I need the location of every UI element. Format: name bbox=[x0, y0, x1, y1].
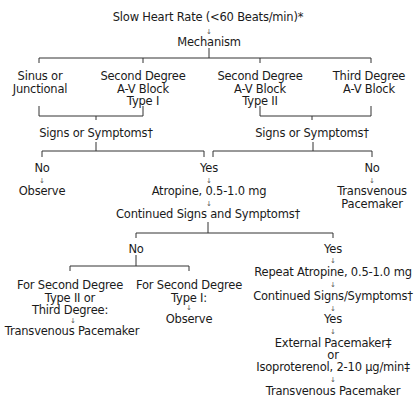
action-line: Transvenous bbox=[337, 185, 407, 198]
option-type1: For Second Degree Type I: bbox=[136, 279, 242, 304]
title: Slow Heart Rate (<60 Beats/min)* bbox=[113, 11, 304, 24]
cause-line: Sinus or bbox=[13, 70, 68, 83]
left-no: No bbox=[34, 162, 49, 175]
left-observe: Observe bbox=[19, 185, 66, 198]
continued-yes: Yes bbox=[324, 243, 342, 256]
option-line: Type I: bbox=[136, 292, 242, 305]
right-no: No bbox=[364, 162, 379, 175]
final-transvenous-pacemaker: Transvenous Pacemaker bbox=[266, 385, 401, 398]
option-line: For Second Degree bbox=[17, 279, 123, 292]
option-type2-third: For Second Degree Type II or Third Degre… bbox=[17, 279, 123, 317]
continued-no: No bbox=[128, 243, 143, 256]
mechanism: Mechanism bbox=[177, 36, 241, 49]
arrow-icon: ↓ bbox=[330, 329, 336, 336]
cause-third-degree: Third Degree A-V Block bbox=[333, 70, 405, 95]
right-signs-question: Signs or Symptoms† bbox=[255, 127, 369, 140]
option1-action: Transvenous Pacemaker bbox=[5, 325, 140, 338]
repeat-atropine: Repeat Atropine, 0.5-1.0 mg bbox=[254, 266, 411, 279]
cause-line: Third Degree bbox=[333, 70, 405, 83]
option-line: Third Degree: bbox=[17, 304, 123, 317]
arrow-icon: ↓ bbox=[330, 258, 336, 265]
action-line: Pacemaker bbox=[337, 198, 407, 211]
cause-line: Type I bbox=[100, 95, 185, 108]
cause-line: A-V Block bbox=[333, 83, 405, 96]
yes: Yes bbox=[200, 162, 218, 175]
yes-2: Yes bbox=[324, 313, 342, 326]
arrow-icon: ↓ bbox=[186, 305, 192, 312]
cause-second-degree-type1: Second Degree A-V Block Type I bbox=[100, 70, 185, 108]
arrow-icon: ↓ bbox=[330, 377, 336, 384]
isoproterenol: Isoproterenol, 2-10 μg/min‡ bbox=[256, 361, 409, 374]
cause-line: Second Degree bbox=[100, 70, 185, 83]
cause-sinus: Sinus or Junctional bbox=[13, 70, 68, 95]
cause-line: Type II bbox=[217, 95, 302, 108]
option-line: For Second Degree bbox=[136, 279, 242, 292]
option2-action: Observe bbox=[166, 313, 213, 326]
cause-second-degree-type2: Second Degree A-V Block Type II bbox=[217, 70, 302, 108]
continued-signs: Continued Signs and Symptoms† bbox=[116, 208, 300, 221]
atropine: Atropine, 0.5-1.0 mg bbox=[152, 185, 267, 198]
cause-line: Second Degree bbox=[217, 70, 302, 83]
continued-signs-2: Continued Signs/Symptoms† bbox=[253, 290, 413, 303]
arrow-icon: ↓ bbox=[330, 282, 336, 289]
right-transvenous-pacemaker: Transvenous Pacemaker bbox=[337, 185, 407, 210]
left-signs-question: Signs or Symptoms† bbox=[39, 127, 153, 140]
cause-line: Junctional bbox=[13, 83, 68, 96]
